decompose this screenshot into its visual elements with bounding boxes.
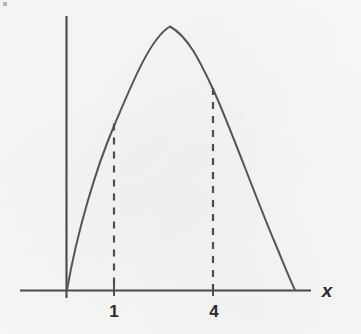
parabola-curve: [67, 27, 295, 291]
parabola-figure: 1 4 x: [0, 0, 361, 334]
x-axis-label: x: [321, 280, 334, 301]
figure-canvas: 1 4 x: [0, 0, 361, 334]
scan-speck-artifact: [3, 2, 7, 6]
tick-label-4: 4: [209, 302, 219, 321]
tick-label-1: 1: [109, 302, 118, 321]
